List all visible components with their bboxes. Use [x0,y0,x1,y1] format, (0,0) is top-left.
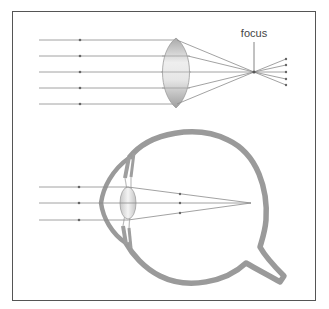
optics-diagram: focus [0,0,329,309]
eye-incoming-rays [39,187,251,220]
focus-label: focus [241,27,268,39]
convex-lens [163,38,190,108]
ray-arrow-icon [285,58,287,86]
diverging-rays [254,59,286,85]
incoming-rays [39,40,177,104]
eyeball-wall [126,132,284,283]
lens-section: focus [39,27,287,108]
ray-arrow-icon [79,39,82,106]
eye-section [39,132,284,283]
